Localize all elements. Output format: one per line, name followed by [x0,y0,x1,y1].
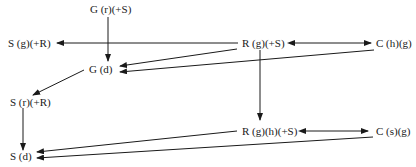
node-g-d: G (d) [89,63,113,75]
edge-gd-to-sr [33,70,84,95]
edge-cs-to-sd [37,137,373,158]
edges-layer [0,0,416,167]
node-c-h-g: C (h)(g) [376,37,412,49]
node-s-g-r: S (g)(+R) [8,37,51,49]
node-s-r-r: S (r)(+R) [10,96,51,108]
state-transition-diagram: G (r)(+S) S (g)(+R) R (g)(+S) C (h)(g) G… [0,0,416,167]
node-s-d: S (d) [10,150,32,162]
edge-rgh-to-sd [37,131,237,152]
node-g-r-s: G (r)(+S) [90,3,131,15]
node-c-s-g: C (s)(g) [376,125,411,137]
node-r-g-s: R (g)(+S) [242,37,285,49]
node-r-g-h-s: R (g)(h)(+S) [242,125,297,137]
edge-ch-to-gd [120,50,374,72]
